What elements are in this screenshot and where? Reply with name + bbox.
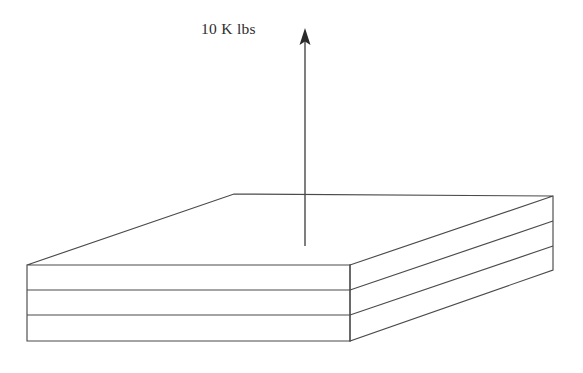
slab-front-left-face-fill <box>27 265 350 341</box>
slab-solid <box>27 194 553 341</box>
load-magnitude-label: 10 K lbs <box>201 21 256 37</box>
laminated-slab-load-diagram: 10 K lbs <box>0 0 583 373</box>
figure-canvas <box>0 0 583 373</box>
